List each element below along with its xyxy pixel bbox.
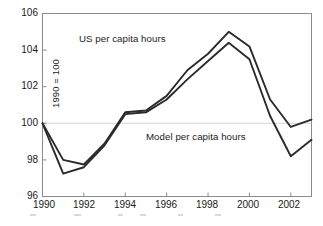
series-line-us [43, 32, 312, 165]
plot-area [0, 0, 323, 226]
series-line-model [43, 43, 312, 174]
data-series-group [43, 32, 312, 174]
axis-frame [43, 14, 312, 197]
chart-figure: 1990 = 100 106 104 102 100 98 96 1990 19… [0, 0, 323, 226]
